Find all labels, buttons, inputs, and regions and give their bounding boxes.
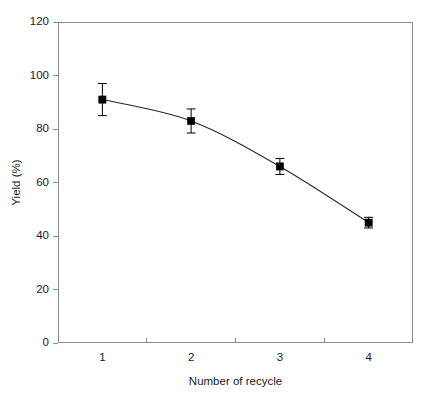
y-tick-label: 120 — [30, 14, 49, 29]
x-tick-label: 4 — [349, 349, 389, 365]
y-tick-mark — [53, 22, 58, 23]
y-tick-mark — [53, 343, 58, 344]
y-tick-label: 20 — [36, 282, 49, 297]
y-tick-label: 80 — [36, 121, 49, 136]
y-tick-mark — [53, 289, 58, 290]
x-tick-label: 3 — [260, 349, 300, 365]
plot-area — [58, 22, 413, 343]
y-axis-title: Yield (%) — [8, 22, 24, 343]
x-tick-mark — [146, 338, 147, 343]
chart-figure: Yield (%) Number of recycle 020406080100… — [0, 0, 430, 401]
x-tick-mark — [235, 338, 236, 343]
y-tick-label: 0 — [43, 335, 49, 350]
x-tick-mark — [324, 338, 325, 343]
x-axis-title: Number of recycle — [58, 373, 413, 389]
y-tick-label: 40 — [36, 228, 49, 243]
y-tick-mark — [53, 236, 58, 237]
y-tick-label: 60 — [36, 175, 49, 190]
y-tick-mark — [53, 182, 58, 183]
y-tick-label: 100 — [30, 68, 49, 83]
y-tick-mark — [53, 75, 58, 76]
y-tick-mark — [53, 129, 58, 130]
x-tick-label: 2 — [171, 349, 211, 365]
x-tick-label: 1 — [82, 349, 122, 365]
